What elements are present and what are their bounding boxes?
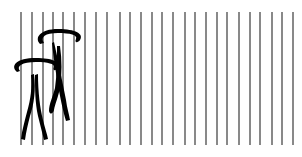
front-figure-leg-left (21, 74, 35, 140)
illustration-canvas (0, 0, 302, 157)
rear-figure-leg-right (52, 42, 70, 121)
line-and-figures-illustration (0, 0, 302, 157)
front-figure-leg-right (35, 74, 48, 140)
